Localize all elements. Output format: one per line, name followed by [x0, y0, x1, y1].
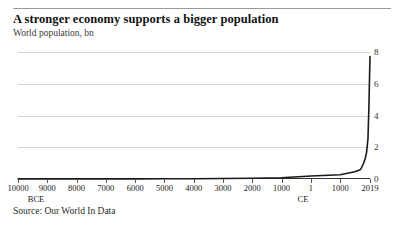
x-tick-label: 1000 — [332, 184, 349, 193]
chart-source: Source: Our World In Data — [13, 206, 115, 216]
x-tick-label: 5000 — [156, 184, 173, 193]
x-tick-label: 1 — [309, 184, 313, 193]
x-tick-label: 3000 — [215, 184, 232, 193]
x-tick-label: 1000 — [273, 184, 290, 193]
x-tick-label: 6000 — [127, 184, 144, 193]
chart-title: A stronger economy supports a bigger pop… — [13, 12, 393, 27]
top-divider — [13, 8, 391, 9]
x-tick-label: 10000 — [7, 184, 28, 193]
x-tick-label: 2019 — [362, 184, 379, 193]
y-tick-label-4: 4 — [374, 112, 394, 121]
y-tick-label-2: 2 — [374, 143, 394, 152]
population-line-series — [18, 52, 370, 179]
y-tick-label-8: 8 — [374, 48, 394, 57]
era-label-ce: CE — [298, 195, 309, 204]
chart-figure: A stronger economy supports a bigger pop… — [0, 0, 404, 231]
era-label-bce: BCE — [28, 195, 45, 204]
y-tick-label-6: 6 — [374, 80, 394, 89]
plot-area — [18, 52, 370, 179]
x-tick-label: 2000 — [244, 184, 261, 193]
chart-subtitle: World population, bn — [13, 28, 393, 38]
x-tick-label: 4000 — [185, 184, 202, 193]
x-tick-label: 7000 — [97, 184, 114, 193]
x-tick-label: 8000 — [68, 184, 85, 193]
x-tick-label: 9000 — [39, 184, 56, 193]
x-axis-labels: 1000090008000700060005000400030002000100… — [0, 184, 404, 196]
